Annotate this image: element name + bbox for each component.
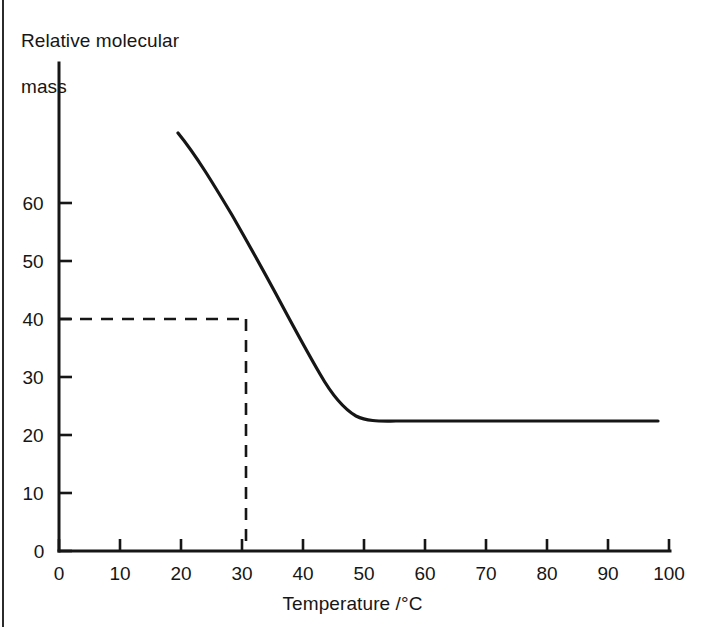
x-tick-label-60: 60 <box>414 564 435 583</box>
y-axis-ticks <box>59 203 72 551</box>
x-axis-ticks <box>59 539 669 551</box>
x-tick-label-30: 30 <box>231 564 252 583</box>
y-tick-label-40: 40 <box>22 310 43 329</box>
x-tick-label-80: 80 <box>536 564 557 583</box>
x-tick-label-50: 50 <box>353 564 374 583</box>
x-tick-label-90: 90 <box>597 564 618 583</box>
y-axis-title-line-1: Relative molecular <box>21 30 179 51</box>
data-curve-relative-molecular-mass <box>178 133 658 421</box>
x-tick-label-100: 100 <box>653 564 685 583</box>
axes-group <box>59 63 670 551</box>
chart-page: 0 10 20 30 40 50 60 0 10 20 30 40 50 60 … <box>0 0 705 627</box>
y-axis-title-line-2: mass <box>21 76 67 97</box>
x-tick-label-0: 0 <box>54 564 65 583</box>
x-tick-label-70: 70 <box>475 564 496 583</box>
y-tick-label-0: 0 <box>34 542 45 561</box>
y-tick-label-50: 50 <box>22 252 43 271</box>
y-tick-label-30: 30 <box>22 368 43 387</box>
y-axis-title: Relative molecular mass <box>21 6 179 98</box>
x-axis-title: Temperature /°C <box>0 592 705 615</box>
x-tick-label-10: 10 <box>109 564 130 583</box>
x-tick-label-20: 20 <box>170 564 191 583</box>
y-tick-label-10: 10 <box>22 484 43 503</box>
construction-lines-group <box>59 319 247 551</box>
y-tick-label-20: 20 <box>22 426 43 445</box>
y-tick-label-60: 60 <box>22 194 43 213</box>
x-tick-label-40: 40 <box>292 564 313 583</box>
